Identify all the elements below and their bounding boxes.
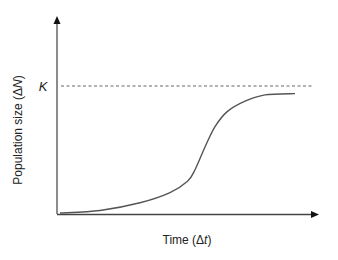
y-axis-label-text: Population size (Δ — [11, 88, 25, 185]
y-axis-label: Population size (ΔN) — [11, 75, 25, 184]
x-axis-label-close: ) — [207, 233, 211, 247]
x-axis-label-text: Time (Δ — [163, 233, 205, 247]
y-axis-arrow-icon — [54, 16, 61, 24]
y-axis-label-var: N — [11, 79, 25, 88]
x-axis-label: Time (Δt) — [163, 233, 212, 247]
y-axis-label-close: ) — [11, 75, 25, 79]
x-axis-arrow-icon — [311, 211, 319, 218]
carrying-capacity-label: K — [39, 79, 48, 94]
logistic-curve — [60, 94, 295, 213]
logistic-growth-chart — [0, 0, 338, 260]
